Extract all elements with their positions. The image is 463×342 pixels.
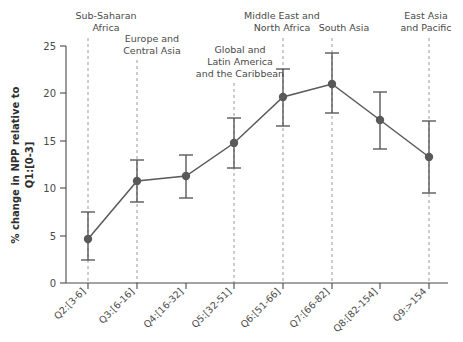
y-tick-label-0: 0 (50, 278, 56, 289)
data-point-q3 (133, 177, 141, 185)
region-label-europe-central-asia-line1: Europe and (125, 33, 179, 44)
data-point-q7 (328, 80, 336, 88)
region-label-middle-east-north-africa-line1: Middle East and (244, 10, 320, 21)
region-label-sub-saharan-africa-line2: Africa (92, 22, 119, 33)
region-label-east-asia-pacific-line1: East Asia (404, 10, 447, 21)
y-tick-label-15: 15 (43, 136, 56, 147)
data-point-q2 (84, 235, 92, 243)
region-label-global-latin-america-line2: Latin America (207, 56, 273, 67)
y-tick-label-25: 25 (43, 41, 56, 52)
y-tick-label-10: 10 (43, 183, 56, 194)
y-axis-title-line1: % change in NPP relative to (10, 86, 21, 243)
chart-svg: 25 20 15 10 5 0 % change in NPP relative… (0, 0, 463, 342)
data-point-q5 (230, 139, 238, 147)
region-label-global-latin-america-line3: and the Caribbean (196, 68, 284, 79)
y-axis-title-line2: Q1:[0-3] (24, 142, 35, 189)
y-tick-label-20: 20 (43, 88, 56, 99)
region-label-global-latin-america-line1: Global and (214, 44, 265, 55)
data-point-q8 (376, 116, 384, 124)
region-label-south-asia-line1: South Asia (319, 22, 370, 33)
region-label-middle-east-north-africa-line2: North Africa (254, 22, 311, 33)
region-label-sub-saharan-africa-line1: Sub-Saharan (76, 10, 137, 21)
region-label-east-asia-pacific-line2: and Pacific (400, 22, 451, 33)
data-point-q4 (182, 172, 190, 180)
npp-quantile-line-chart: 25 20 15 10 5 0 % change in NPP relative… (0, 0, 463, 342)
data-point-q9 (425, 153, 433, 161)
data-point-q6 (279, 93, 287, 101)
y-tick-label-5: 5 (50, 231, 56, 242)
region-label-europe-central-asia-line2: Central Asia (123, 45, 181, 56)
